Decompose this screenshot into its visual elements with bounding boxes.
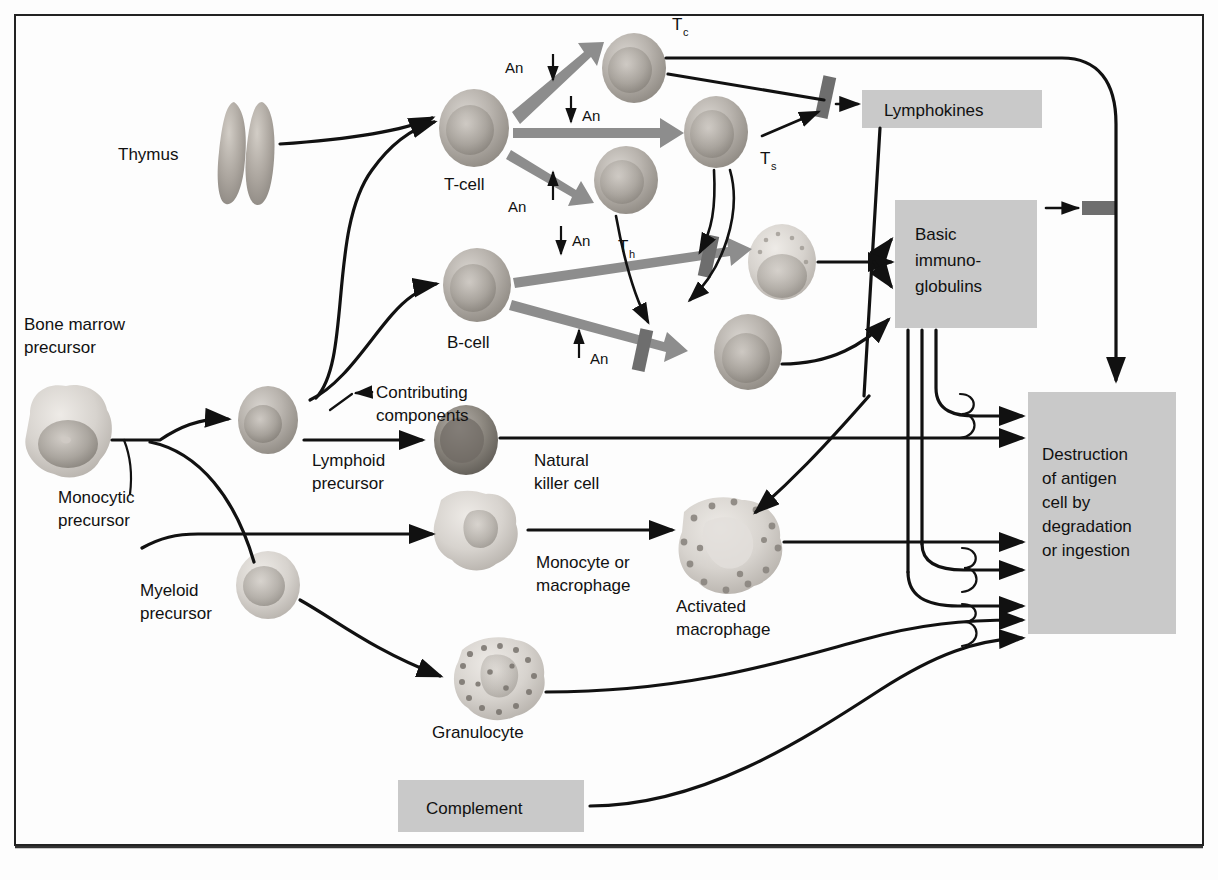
cell-b-cell xyxy=(443,248,511,322)
arrow-marrow-to-lymphoid xyxy=(112,419,228,440)
label-t-suppressor-base: T xyxy=(760,149,770,168)
diagram-canvas: Thymus Bone marrow precursor Monocytic p… xyxy=(0,0,1218,880)
figure-frame xyxy=(15,15,1203,845)
label-lymphoid-precursor-line2: precursor xyxy=(312,474,384,493)
label-t-cytotoxic: T c xyxy=(672,15,689,38)
cell-activated-macrophage xyxy=(679,497,783,594)
arrow-ts-to-lymphokine-gate xyxy=(762,112,818,136)
label-thymus: Thymus xyxy=(118,145,178,164)
label-t-suppressor: T s xyxy=(760,149,777,172)
label-monocyte-macrophage-line1: Monocyte or xyxy=(536,553,630,572)
label-t-cell: T-cell xyxy=(444,175,485,194)
cell-granulocyte xyxy=(454,637,545,720)
arrow-myeloid-to-granulocyte xyxy=(300,600,440,676)
cell-t-suppressor xyxy=(684,96,748,168)
label-box-destruction-line1: Destruction xyxy=(1042,445,1128,464)
label-activated-macrophage-line2: macrophage xyxy=(676,620,771,639)
label-box-destruction-line3: cell by xyxy=(1042,493,1091,512)
label-monocytic-precursor-line1: Monocytic xyxy=(58,488,135,507)
label-natural-killer-line2: killer cell xyxy=(534,474,599,493)
label-box-destruction-line2: of antigen xyxy=(1042,469,1117,488)
label-an-3: An xyxy=(508,198,526,215)
label-box-complement: Complement xyxy=(426,799,523,818)
label-box-immunoglobulins-line3: globulins xyxy=(915,277,982,296)
cell-t-helper xyxy=(594,146,658,214)
label-t-helper-sub: h xyxy=(629,248,635,260)
label-monocyte-macrophage-line2: macrophage xyxy=(536,576,631,595)
label-box-lymphokines: Lymphokines xyxy=(884,101,984,120)
label-an-5: An xyxy=(590,350,608,367)
label-t-helper-base: T xyxy=(618,237,628,256)
label-contributing-components-line2: components xyxy=(376,406,469,425)
gate-immunoglobulin-feedback xyxy=(1082,201,1116,215)
antigen-arrows xyxy=(553,54,579,358)
arrow-marrow-to-myeloid xyxy=(150,442,254,562)
arrow-complement-to-destruction xyxy=(590,638,1022,806)
cell-plasma-upper xyxy=(748,224,816,300)
label-an-4: An xyxy=(572,232,590,249)
cell-myeloid-precursor xyxy=(236,551,300,619)
cell-thymus xyxy=(218,102,275,205)
label-box-destruction-line4: degradation xyxy=(1042,517,1132,536)
arrow-thymus-to-tcell xyxy=(280,118,432,144)
label-bone-marrow-precursor-line2: precursor xyxy=(24,338,96,357)
cell-monocyte-macrophage xyxy=(434,491,518,571)
cell-t-cytotoxic xyxy=(602,33,666,103)
label-natural-killer-line1: Natural xyxy=(534,451,589,470)
arrow-ts-to-plasma-lower xyxy=(690,170,734,300)
label-monocytic-precursor-line2: precursor xyxy=(58,511,130,530)
label-box-immunoglobulins-line1: Basic xyxy=(915,225,957,244)
label-box-destruction-line5: or ingestion xyxy=(1042,541,1130,560)
label-granulocyte: Granulocyte xyxy=(432,723,524,742)
arrow-marrow-to-monocyte xyxy=(142,534,432,548)
arrow-lymphokines-to-activated xyxy=(756,396,869,512)
label-myeloid-precursor-line1: Myeloid xyxy=(140,581,199,600)
bracket-curls xyxy=(960,394,977,646)
label-bone-marrow-precursor-line1: Bone marrow xyxy=(24,315,126,334)
label-t-cytotoxic-base: T xyxy=(672,15,682,34)
label-t-suppressor-sub: s xyxy=(771,160,777,172)
label-lymphoid-precursor-line1: Lymphoid xyxy=(312,451,385,470)
line-ig1-curve-to-destruction xyxy=(908,572,1022,606)
label-an-2: An xyxy=(582,107,600,124)
bracket-curl-low xyxy=(962,604,977,646)
line-tc-to-lymphokine-gate xyxy=(668,74,824,100)
leader-contributing-components xyxy=(330,394,352,410)
arrow-plasma-lower-to-immunoglobulins xyxy=(782,320,888,364)
label-t-helper: T h xyxy=(618,237,635,260)
arrow-fan-lower xyxy=(874,262,891,286)
arrow-contributing-to-tcell xyxy=(316,122,434,398)
label-myeloid-precursor-line2: precursor xyxy=(140,604,212,623)
label-activated-macrophage-line1: Activated xyxy=(676,597,746,616)
cell-bone-marrow-precursor xyxy=(25,385,112,477)
label-box-immunoglobulins-line2: immuno- xyxy=(915,251,981,270)
leader-monocytic-precursor xyxy=(124,440,131,494)
cell-plasma-lower xyxy=(714,314,782,390)
label-contributing-components-line1: Contributing xyxy=(376,383,468,402)
label-t-cytotoxic-sub: c xyxy=(683,26,689,38)
arrow-granulocyte-to-destruction xyxy=(546,620,1022,692)
label-an-1: An xyxy=(505,59,523,76)
arrow-fan-upper xyxy=(874,240,891,262)
cell-monocytic-lymphoid-precursor xyxy=(238,386,298,454)
cell-t-cell xyxy=(439,89,509,167)
box-destruction-of-antigen xyxy=(1028,392,1176,634)
label-b-cell: B-cell xyxy=(447,333,490,352)
line-ig-descend-3 xyxy=(936,330,1022,416)
leader-arrow-contributing xyxy=(356,392,372,393)
immune-system-flow-diagram: Thymus Bone marrow precursor Monocytic p… xyxy=(0,0,1218,880)
